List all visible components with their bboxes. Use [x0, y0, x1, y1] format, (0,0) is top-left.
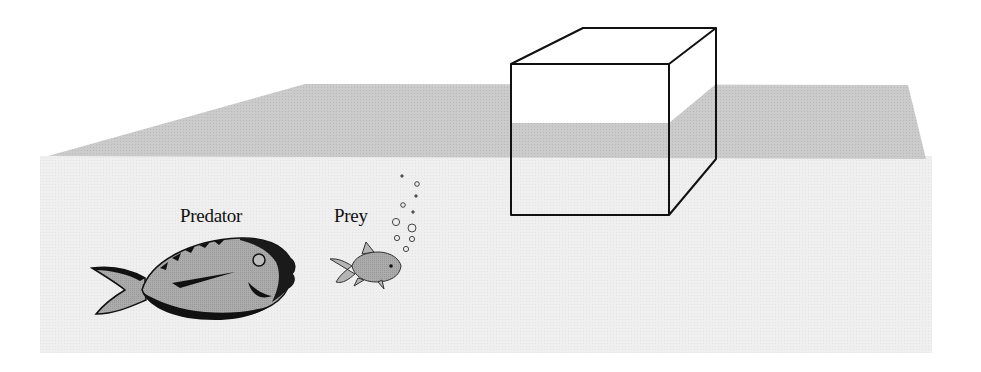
diagram-scene: Predator Prey: [0, 0, 981, 372]
prey-label: Prey: [334, 205, 368, 227]
water-surface-plane: [48, 84, 926, 159]
predator-label: Predator: [180, 205, 242, 227]
